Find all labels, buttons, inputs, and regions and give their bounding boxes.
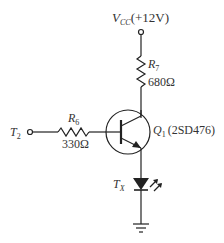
circuit-diagram: VCC(+12V) R7 680Ω T2 R6 330Ω Q1(2SD476) … <box>0 0 224 243</box>
r6-value: 330Ω <box>62 137 89 151</box>
led-icon <box>133 178 149 190</box>
t2-label: T2 <box>10 125 21 141</box>
r7-value: 680Ω <box>148 75 175 89</box>
vcc-terminal <box>139 30 144 35</box>
vcc-label: VCC(+12V) <box>112 10 169 27</box>
transistor-collector <box>121 116 141 126</box>
led-label: TX <box>113 177 126 193</box>
r7-resistor-icon <box>137 56 145 87</box>
schematic: VCC(+12V) R7 680Ω T2 R6 330Ω Q1(2SD476) … <box>0 0 224 243</box>
q1-label: Q1(2SD476) <box>153 123 215 139</box>
r6-resistor-icon <box>58 128 89 136</box>
r6-label: R6 <box>67 111 79 127</box>
r7-label: R7 <box>147 57 159 73</box>
t2-terminal <box>28 130 33 135</box>
